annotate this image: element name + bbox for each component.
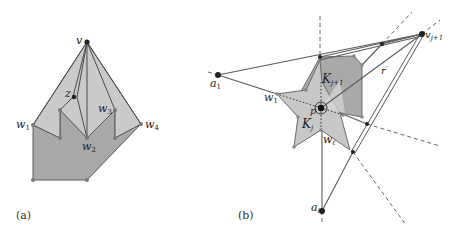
caption-b: (b) <box>238 209 254 222</box>
label-w1: w1 <box>16 118 30 132</box>
label-a1: a1 <box>210 77 221 91</box>
label-z: z <box>64 87 71 100</box>
figure-canvas: v z w1 w2 w3 w4 (a) <box>0 0 463 241</box>
label-al: aℓ <box>311 201 321 215</box>
figure-b: a1 vj+1 w1 wℓ aℓ Kj+1 Kj p r′ (b) <box>208 12 443 225</box>
label-w4: w4 <box>145 118 159 132</box>
label-p: p <box>310 105 317 116</box>
caption-a: (a) <box>16 209 31 222</box>
label-v: v <box>76 34 83 47</box>
vertex-v <box>84 39 89 44</box>
vertex-p <box>318 105 324 111</box>
figure-a: v z w1 w2 w3 w4 (a) <box>16 34 159 222</box>
label-vj1: vj+1 <box>425 29 443 42</box>
label-r-prime: r′ <box>381 64 388 76</box>
vertex-z <box>72 95 77 100</box>
